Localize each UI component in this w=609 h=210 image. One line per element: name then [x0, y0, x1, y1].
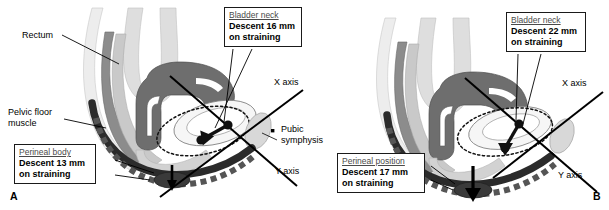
callout-perineal-position-title: Perineal position	[342, 156, 420, 167]
label-rectum: Rectum	[22, 30, 53, 42]
callout-bladder-neck-title: Bladder neck	[511, 15, 581, 26]
panel-letter-b: B	[593, 190, 601, 202]
label-pubic-symphysis-line1: Pubic	[281, 124, 304, 136]
panel-a: Rectum Pelvic floor muscle X axis Pubic …	[0, 0, 304, 210]
label-pelvic-floor-line2: muscle	[8, 118, 37, 130]
label-x-axis: X axis	[274, 77, 299, 89]
callout-perineal-body: Perineal body Descent 13 mm on straining	[14, 144, 96, 184]
callout-bladder-neck-value: Descent 22 mm	[511, 26, 581, 37]
label-pelvic-floor-line1: Pelvic floor	[8, 107, 52, 119]
callout-bladder-neck: Bladder neck Descent 22 mm on straining	[506, 12, 586, 52]
callout-bladder-neck-condition: on straining	[511, 37, 581, 48]
callout-bladder-neck-value: Descent 16 mm	[229, 21, 297, 32]
pubic-symphysis-marker-dot	[271, 129, 274, 132]
callout-perineal-body-value: Descent 13 mm	[19, 158, 91, 169]
panel-b: X axis Y axis Bladder neck Descent 22 mm…	[305, 0, 609, 210]
label-x-axis: X axis	[562, 78, 587, 90]
callout-bladder-neck-condition: on straining	[229, 32, 297, 43]
label-y-axis: Y axis	[275, 166, 299, 178]
callout-bladder-neck-title: Bladder neck	[229, 10, 297, 21]
figure-container: Rectum Pelvic floor muscle X axis Pubic …	[0, 0, 609, 210]
callout-perineal-position: Perineal position Descent 17 mm on strai…	[337, 153, 425, 193]
panel-letter-a: A	[10, 190, 18, 202]
callout-perineal-body-title: Perineal body	[19, 147, 91, 158]
callout-perineal-position-condition: on straining	[342, 178, 420, 189]
callout-perineal-position-value: Descent 17 mm	[342, 167, 420, 178]
callout-bladder-neck: Bladder neck Descent 16 mm on straining	[224, 7, 302, 47]
label-pubic-symphysis-line2: symphysis	[281, 135, 323, 147]
label-y-axis: Y axis	[558, 170, 582, 182]
callout-perineal-body-condition: on straining	[19, 169, 91, 180]
